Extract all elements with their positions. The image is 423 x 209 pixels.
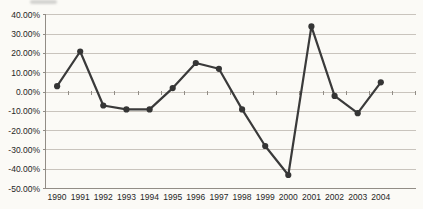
- x-axis-label: 1993: [117, 192, 136, 202]
- y-axis-label: 20.00%: [11, 48, 40, 58]
- x-axis-label: 1991: [71, 192, 90, 202]
- data-point-1998: [239, 106, 245, 112]
- y-axis-label: -30.00%: [8, 145, 40, 155]
- data-point-2003: [355, 110, 361, 116]
- x-axis-label: 1998: [233, 192, 252, 202]
- x-axis-label: 1995: [163, 192, 182, 202]
- y-axis-label: 30.00%: [11, 29, 40, 39]
- x-axis-label: 2003: [348, 192, 367, 202]
- line-chart: 40.00%30.00%20.00%10.00%0.00%-10.00%-20.…: [0, 0, 423, 209]
- data-point-2002: [332, 93, 338, 99]
- y-axis-label: -50.00%: [8, 184, 40, 194]
- y-axis-label: -20.00%: [8, 126, 40, 136]
- x-axis-label: 1992: [94, 192, 113, 202]
- data-point-1995: [170, 85, 176, 91]
- x-axis-label: 1999: [256, 192, 275, 202]
- y-axis-label: 0.00%: [16, 87, 41, 97]
- y-axis-label: -10.00%: [8, 106, 40, 116]
- data-point-1994: [147, 106, 153, 112]
- y-axis-label: -40.00%: [8, 164, 40, 174]
- data-point-2001: [308, 23, 314, 29]
- data-point-2000: [285, 172, 291, 178]
- x-axis-label: 2004: [371, 192, 390, 202]
- y-axis-label: 40.00%: [11, 10, 40, 20]
- data-point-1991: [77, 48, 83, 54]
- y-axis-label: 10.00%: [11, 68, 40, 78]
- data-line: [57, 26, 381, 175]
- data-point-1990: [54, 83, 60, 89]
- data-point-1997: [216, 66, 222, 72]
- x-axis-label: 2002: [325, 192, 344, 202]
- x-axis-label: 2000: [279, 192, 298, 202]
- data-point-1999: [262, 143, 268, 149]
- chart-canvas: 40.00%30.00%20.00%10.00%0.00%-10.00%-20.…: [0, 0, 423, 209]
- x-axis-label: 1990: [48, 192, 67, 202]
- data-point-2004: [378, 79, 384, 85]
- data-point-1993: [123, 106, 129, 112]
- x-axis-label: 2001: [302, 192, 321, 202]
- scan-artifact: [30, 0, 57, 4]
- x-axis-label: 1996: [186, 192, 205, 202]
- data-point-1992: [100, 102, 106, 108]
- x-axis-label: 1994: [140, 192, 159, 202]
- data-point-1996: [193, 60, 199, 66]
- x-axis-label: 1997: [209, 192, 228, 202]
